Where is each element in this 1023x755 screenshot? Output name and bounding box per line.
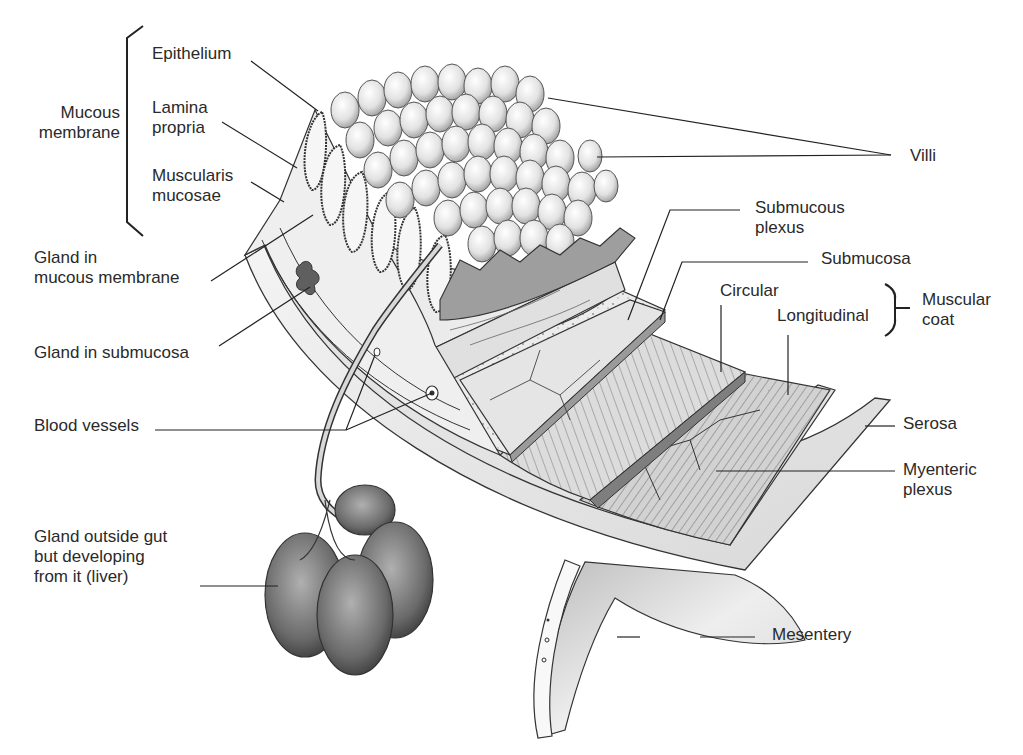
- label-submucosa: Submucosa: [821, 249, 911, 269]
- label-gland-outside-gut: Gland outside gut but developing from it…: [34, 527, 167, 587]
- label-muscular-coat: Muscular coat: [922, 290, 991, 330]
- label-submucous-plexus: Submucous plexus: [755, 198, 845, 238]
- label-circular: Circular: [720, 281, 779, 301]
- label-mucous-membrane: Mucous membrane: [20, 103, 120, 143]
- label-gland-in-submucosa: Gland in submucosa: [34, 343, 189, 363]
- label-lamina-propria: Lamina propria: [152, 98, 208, 138]
- label-gland-in-mucous-membrane: Gland in mucous membrane: [34, 248, 180, 288]
- label-epithelium: Epithelium: [152, 44, 231, 64]
- label-myenteric-plexus: Myenteric plexus: [903, 460, 977, 500]
- mesentery: [534, 560, 805, 738]
- label-serosa: Serosa: [903, 414, 957, 434]
- label-blood-vessels: Blood vessels: [34, 416, 139, 436]
- label-mesentery: Mesentery: [772, 625, 851, 645]
- label-muscularis-mucosae: Muscularis mucosae: [152, 166, 233, 206]
- liver-gland: [265, 485, 433, 675]
- label-villi: Villi: [910, 146, 936, 166]
- label-longitudinal: Longitudinal: [777, 306, 869, 326]
